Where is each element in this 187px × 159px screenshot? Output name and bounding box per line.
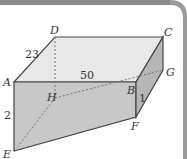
vertex-label-g: G xyxy=(166,66,175,79)
vertex-label-f: F xyxy=(130,120,139,133)
vertex-label-e: E xyxy=(2,148,11,159)
vertex-label-h: H xyxy=(46,91,57,104)
vertex-label-a: A xyxy=(2,76,11,89)
vertex-label-b: B xyxy=(126,84,135,97)
dimension-ad: 23 xyxy=(25,48,39,61)
diagram-canvas: D C A H B G F E 23 50 2 1 xyxy=(0,0,187,159)
vertex-label-d: D xyxy=(49,24,59,37)
dimension-ab: 50 xyxy=(80,69,94,82)
dimension-bf: 1 xyxy=(139,92,146,105)
dimension-ae: 2 xyxy=(4,109,11,122)
vertex-label-c: C xyxy=(164,26,173,39)
